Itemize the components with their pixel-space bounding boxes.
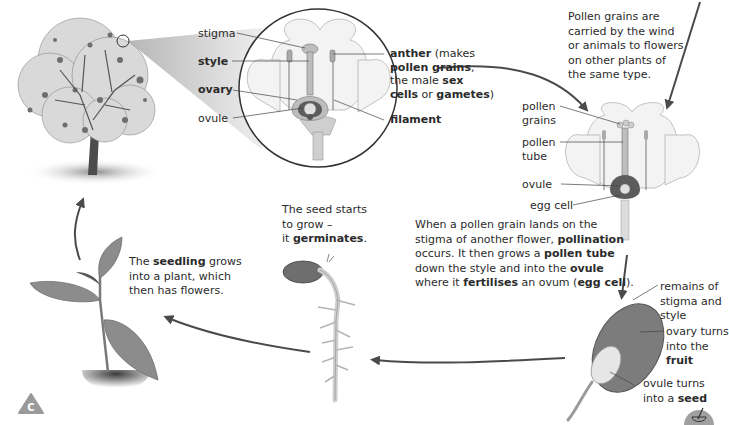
pollination-caption: Pollen grains are carried by the wind or… <box>568 10 683 83</box>
label-ovary-fruit: ovary turns into the fruit <box>666 325 729 369</box>
label-pollen-grains: pollen grains <box>522 100 556 127</box>
label-ovule-seed: ovule turns into a seed <box>643 377 707 406</box>
c-badge-icon: C <box>18 393 44 415</box>
label-ovary: ovary <box>198 83 233 97</box>
label-style: style <box>198 55 228 69</box>
label-remains-stigma-style: remains of stigma and style <box>660 280 722 324</box>
germination-caption: The seed starts to grow – it germinates. <box>282 203 367 247</box>
label-stigma: stigma <box>198 27 236 41</box>
label-egg-cell: egg cell <box>530 199 573 213</box>
label-pollen-tube: pollen tube <box>522 136 556 163</box>
label-ovule: ovule <box>198 112 228 126</box>
label-anther: anther (makes pollen grains, the male se… <box>390 47 494 101</box>
seedling-caption: The seedling grows into a plant, which t… <box>129 255 242 299</box>
germinating-seed-illustration <box>283 254 355 400</box>
svg-text:C: C <box>27 402 34 413</box>
label-filament: filament <box>390 113 441 127</box>
fertilisation-caption: When a pollen grain lands on the stigma … <box>415 218 634 291</box>
mortar-pestle-badge-icon <box>684 405 714 425</box>
label-ovule-2: ovule <box>522 178 552 192</box>
